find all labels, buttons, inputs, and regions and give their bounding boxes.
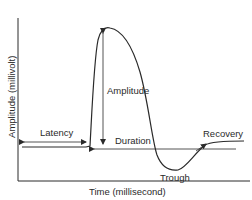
- recovery-label: Recovery: [203, 129, 243, 139]
- latency-label: Latency: [40, 128, 73, 138]
- trough-label: Trough: [160, 173, 190, 183]
- recovery-arrow: [196, 144, 206, 151]
- action-potential-diagram: [0, 0, 252, 200]
- amplitude-label: Amplitude: [107, 86, 149, 96]
- x-axis-label: Time (millisecond): [89, 187, 166, 197]
- duration-label: Duration: [115, 136, 151, 146]
- y-axis-label: Amplitude (millivolt): [7, 47, 17, 147]
